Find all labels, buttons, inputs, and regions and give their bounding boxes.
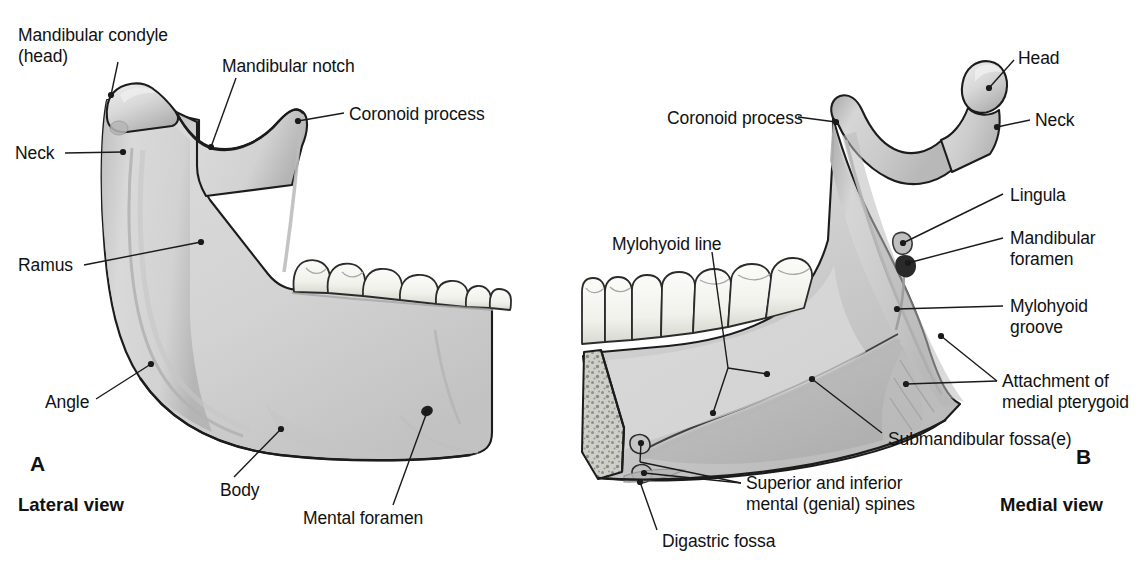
leader-line-digastric-fossa <box>640 482 657 530</box>
label-lateral-neck: Neck <box>15 143 54 164</box>
label-medial-mandibular-foramen: Mandibularforamen <box>1010 228 1096 270</box>
label-lateral-ramus: Ramus <box>18 255 73 276</box>
leader-dot-neck <box>994 124 1000 130</box>
label-line: Superior and inferior <box>746 473 915 494</box>
label-line: Digastric fossa <box>662 531 775 552</box>
label-line: Coronoid process <box>349 104 485 125</box>
leader-line-mandibular-notch <box>211 78 236 147</box>
label-line: Angle <box>45 392 89 413</box>
leader-dot-mylohyoid-line <box>764 371 770 377</box>
label-line: Attachment of <box>1002 371 1129 392</box>
label-lateral-coronoid-process: Coronoid process <box>349 104 485 125</box>
label-line: Submandibular fossa(e) <box>888 429 1072 450</box>
label-lateral-body: Body <box>220 480 260 501</box>
label-line: Mylohyoid line <box>612 234 722 255</box>
leader-dot-attachment-medial-pterygoid <box>938 333 944 339</box>
leader-dot-coronoid-process <box>833 119 839 125</box>
leader-line-lingula <box>903 194 1003 243</box>
leader-dot-coronoid-process <box>295 118 301 124</box>
label-medial-digastric-fossa: Digastric fossa <box>662 531 775 552</box>
label-line: Mandibular <box>1010 228 1096 249</box>
label-medial-attachment-medial-pterygoid: Attachment ofmedial pterygoid <box>1002 371 1129 413</box>
label-line: medial pterygoid <box>1002 392 1129 413</box>
view-name-medial: Medial view <box>1000 494 1103 516</box>
panel-letter-a: A <box>30 452 45 476</box>
label-line: groove <box>1010 317 1088 338</box>
label-medial-superior-inferior-mental-genial-spines: Superior and inferiormental (genial) spi… <box>746 473 915 515</box>
label-medial-head: Head <box>1018 48 1059 69</box>
leader-dot-ramus <box>198 239 204 245</box>
leader-dot-angle <box>148 361 154 367</box>
leader-dot-neck <box>120 149 126 155</box>
leader-dot-head <box>986 85 992 91</box>
leader-dot-superior-inferior-mental-genial-spines <box>638 440 644 446</box>
leader-dot-superior-inferior-mental-genial-spines <box>641 470 647 476</box>
label-line: Neck <box>1035 110 1074 131</box>
label-medial-submandibular-fossae: Submandibular fossa(e) <box>888 429 1072 450</box>
leader-dot-digastric-fossa <box>637 479 643 485</box>
label-line: mental (genial) spines <box>746 494 915 515</box>
label-line: Body <box>220 480 260 501</box>
label-line: Head <box>1018 48 1059 69</box>
leader-line-attachment-medial-pterygoid <box>941 336 997 381</box>
leader-line-neck <box>65 152 123 153</box>
leader-dot-mandibular-condyle-head <box>108 92 114 98</box>
lateral-view-illustration <box>102 83 511 460</box>
leader-dot-lingula <box>900 240 906 246</box>
view-name-lateral: Lateral view <box>18 494 124 516</box>
label-line: Neck <box>15 143 54 164</box>
mandible-figure <box>0 0 1145 564</box>
label-line: Mandibular condyle <box>18 25 168 46</box>
label-line: Lingula <box>1010 185 1066 206</box>
leader-line-coronoid-process <box>798 117 836 122</box>
label-medial-coronoid-process: Coronoid process <box>667 108 803 129</box>
label-line: Mylohyoid <box>1010 296 1088 317</box>
leader-dot-mylohyoid-line <box>710 410 716 416</box>
label-medial-mylohyoid-groove: Mylohyoidgroove <box>1010 296 1088 338</box>
leader-dot-mylohyoid-groove <box>894 306 900 312</box>
label-medial-mylohyoid-line: Mylohyoid line <box>612 234 722 255</box>
leader-dot-mandibular-notch <box>208 144 214 150</box>
leader-line-neck <box>997 120 1030 127</box>
leader-dot-attachment-medial-pterygoid <box>903 381 909 387</box>
leader-dot-mental-foramen <box>424 409 430 415</box>
pterygoid-fovea-lateral <box>110 121 128 135</box>
leader-dot-mandibular-foramen <box>905 260 911 266</box>
neck-medial <box>941 108 1000 172</box>
label-line: Mandibular notch <box>222 56 355 77</box>
label-line: foramen <box>1010 249 1096 270</box>
panel-letter-b: B <box>1076 445 1091 469</box>
label-lateral-mental-foramen: Mental foramen <box>303 508 423 529</box>
label-lateral-mandibular-condyle-head: Mandibular condyle(head) <box>18 25 168 67</box>
label-medial-lingula: Lingula <box>1010 185 1066 206</box>
label-medial-neck: Neck <box>1035 110 1074 131</box>
leader-dot-body <box>278 426 284 432</box>
label-lateral-mandibular-notch: Mandibular notch <box>222 56 355 77</box>
leader-line-mandibular-foramen <box>908 238 1003 263</box>
label-lateral-angle: Angle <box>45 392 89 413</box>
label-line: (head) <box>18 46 168 67</box>
label-line: Mental foramen <box>303 508 423 529</box>
leader-dot-submandibular-fossae <box>809 376 815 382</box>
label-line: Ramus <box>18 255 73 276</box>
label-line: Coronoid process <box>667 108 803 129</box>
